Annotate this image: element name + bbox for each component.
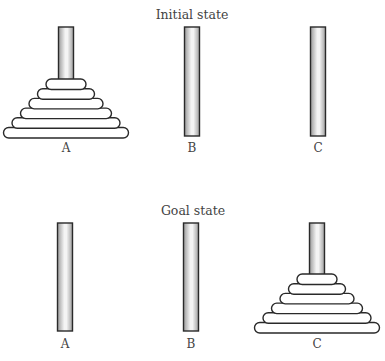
disk-6 [255, 323, 380, 334]
peg-label: A [61, 141, 71, 155]
peg-label: B [187, 337, 196, 351]
peg-c: C [311, 27, 326, 155]
disk-3 [280, 293, 354, 304]
peg-rod [58, 223, 73, 331]
peg-label: C [313, 141, 322, 155]
disk-4 [272, 303, 363, 314]
tower-of-hanoi-diagram: Initial stateABCGoal stateABC [0, 0, 385, 361]
peg-c: C [255, 223, 380, 351]
peg-label: B [188, 141, 197, 155]
peg-b: B [185, 27, 200, 155]
disk-2 [38, 89, 95, 100]
disk-2 [289, 284, 346, 295]
peg-rod [185, 27, 200, 136]
peg-a: A [58, 223, 73, 351]
peg-b: B [184, 223, 199, 351]
panel-title: Goal state [161, 203, 225, 218]
disk-4 [21, 108, 112, 119]
disk-5 [263, 313, 371, 324]
disk-3 [29, 98, 103, 109]
disk-1 [297, 274, 337, 285]
disk-1 [46, 79, 86, 90]
panel-goal: Goal stateABC [58, 203, 380, 351]
panel-initial: Initial stateABC [4, 7, 326, 155]
disk-5 [12, 118, 120, 129]
panel-title: Initial state [156, 7, 229, 22]
peg-rod [184, 223, 199, 331]
peg-rod [311, 27, 326, 136]
peg-a: A [4, 27, 129, 155]
peg-label: A [60, 337, 70, 351]
peg-label: C [312, 337, 321, 351]
disk-6 [4, 128, 129, 139]
